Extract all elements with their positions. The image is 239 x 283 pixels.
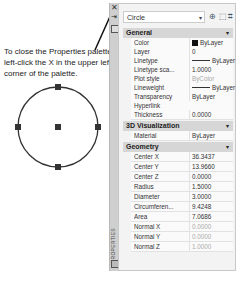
prop-row[interactable]: Diameter3.0000 [131,192,233,202]
lineweight-preview [192,87,210,88]
grip-top[interactable] [55,84,61,90]
linetype-preview [192,60,210,61]
prop-value: ByLayer [189,38,236,47]
chevron-down-icon: ▾ [199,12,202,24]
grip-right[interactable] [95,124,101,130]
prop-label: Area [134,212,186,221]
collapse-icon: ▾ [226,121,229,131]
prop-label: Normal Z [134,242,186,251]
section-3d-visualization[interactable]: 3D Visualization▾ [123,121,233,131]
prop-label: Transparency [134,92,186,101]
prop-label: Linetype [134,56,186,65]
prop-value: ByLayer [189,83,236,92]
prop-row[interactable]: Center Z0.0000 [131,172,233,182]
object-type-select[interactable]: Circle ▾ [123,11,205,23]
prop-row[interactable]: Center Y13.9660 [131,162,233,172]
prop-value: 0.0000 [189,172,236,181]
prop-row[interactable]: Thickness0.0000 [131,110,233,120]
value-text: ByLayer [200,39,223,46]
prop-label: Material [134,131,186,140]
prop-label: Center X [134,152,186,161]
prop-label: Color [134,38,186,47]
value-text: ByLayer [212,57,235,64]
prop-value: ByLayer [189,56,236,65]
prop-value: 0.0000 [189,232,236,241]
prop-row[interactable]: Center X36.3437 [131,152,233,162]
prop-value: 1.0000 [189,65,236,74]
prop-label: Circumferen... [134,202,186,211]
auto-hide-icon[interactable]: ⇥ [111,13,117,21]
prop-value: 36.3437 [189,152,236,161]
prop-label: Diameter [134,192,186,201]
callout-text: To close the Properties palette, left-cl… [4,46,116,79]
close-icon[interactable]: ✕ [111,3,118,12]
properties-panel: Circle ▾ ⊕ ⬚ ⌗ General▾ ColorByLayer Lay… [118,3,236,271]
prop-label: Lineweight [134,83,186,92]
section-general[interactable]: General▾ [123,28,233,38]
prop-value: 9.4248 [189,202,236,211]
prop-label: Plot style [134,74,186,83]
prop-label: Radius [134,182,186,191]
collapse-icon: ▾ [226,28,229,38]
prop-label: Normal X [134,222,186,231]
grip-left[interactable] [15,124,21,130]
prop-label: Linetype sca... [134,65,186,74]
section-title: General [126,29,152,36]
select-objects-icon[interactable]: ⬚ [219,12,227,21]
prop-label: Layer [134,47,186,56]
section-geometry[interactable]: Geometry▾ [123,142,233,152]
grip-bottom[interactable] [55,164,61,170]
prop-label: Center Y [134,162,186,171]
prop-row[interactable]: Normal X0.0000 [131,222,233,232]
grip-center[interactable] [55,124,61,130]
prop-row[interactable]: Radius1.5000 [131,182,233,192]
prop-value: ByLayer [189,131,236,140]
prop-value: 0.0000 [189,110,236,119]
value-text: ByLayer [212,84,235,91]
prop-value: 1.5000 [189,182,236,191]
quick-select-icon[interactable]: ⌗ [228,12,233,22]
prop-value: 0 [189,47,236,56]
prop-row[interactable]: MaterialByLayer [131,131,233,141]
prop-row[interactable]: Normal Y0.0000 [131,232,233,242]
prop-value: ByLayer [189,92,236,101]
prop-row[interactable]: Circumferen...9.4248 [131,202,233,212]
color-swatch [192,40,198,46]
prop-label: Center Z [134,172,186,181]
section-title: 3D Visualization [126,122,180,129]
object-type-value: Circle [127,14,145,21]
prop-row[interactable]: Normal Z1.0000 [131,242,233,252]
prop-value: 1.0000 [189,242,236,251]
section-title: Geometry [126,143,159,150]
prop-label: Thickness [134,110,186,119]
prop-label: Normal Y [134,232,186,241]
prop-value: 13.9660 [189,162,236,171]
prop-value: ByColor [189,74,236,83]
prop-value: 0.0000 [189,222,236,231]
collapse-icon: ▾ [226,142,229,152]
toggle-pickadd-icon[interactable]: ⊕ [209,12,216,21]
prop-value: 3.0000 [189,192,236,201]
prop-row[interactable]: Area7.0686 [131,212,233,222]
prop-label: Hyperlink [134,101,186,110]
palette-title: PROPERTIES [110,228,116,263]
prop-value: 7.0686 [189,212,236,221]
